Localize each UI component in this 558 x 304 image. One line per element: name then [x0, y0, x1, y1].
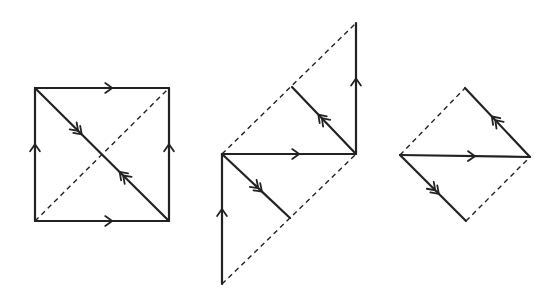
dashed-edge	[466, 157, 530, 221]
figure-rhombus	[400, 88, 530, 221]
solid-edge	[400, 155, 466, 221]
figure-square	[30, 83, 174, 226]
solid-edge	[292, 87, 356, 154]
figure-parallelogram-cut	[217, 23, 361, 284]
solid-edge	[400, 155, 530, 157]
solid-edge	[465, 88, 530, 157]
dashed-edge	[400, 88, 465, 155]
diagram-canvas	[0, 0, 558, 304]
solid-edge	[222, 154, 290, 218]
